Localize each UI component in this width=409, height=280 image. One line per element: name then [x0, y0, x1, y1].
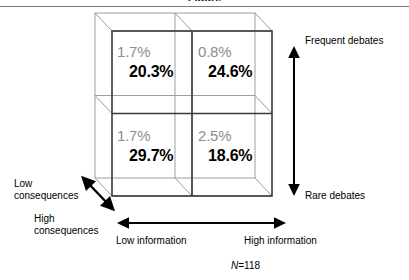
axis-label-frequent-debates: Frequent debates: [305, 35, 383, 47]
axis-label-rare-debates: Rare debates: [305, 190, 365, 202]
cube-depth-edges: [95, 13, 272, 196]
cell-front-top-left-minor: 1.7%: [117, 43, 150, 60]
cell-front-top-left-major: 20.3%: [129, 63, 173, 81]
axis-label-high-consequences: High consequences: [34, 213, 110, 237]
axis-label-low-consequences: Low consequences: [14, 178, 90, 202]
cell-front-top-right-minor: 0.8%: [198, 43, 231, 60]
figure-container: Figure: [0, 0, 409, 280]
axis-label-high-information: High information: [244, 235, 317, 247]
caption-n-value: =118: [238, 260, 260, 271]
cell-front-bottom-left-major: 29.7%: [129, 147, 173, 165]
cell-front-bottom-right-major: 18.6%: [208, 147, 252, 165]
figure-caption-n: N=118: [231, 260, 260, 271]
cell-front-bottom-left-minor: 1.7%: [117, 127, 150, 144]
cell-front-bottom-right-minor: 2.5%: [198, 127, 231, 144]
axis-label-low-information: Low information: [116, 235, 187, 247]
cell-front-top-right-major: 24.6%: [208, 63, 252, 81]
